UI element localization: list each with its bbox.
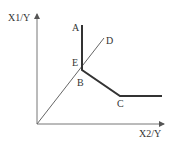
isoquant-diagram: X1/Y X2/Y A D E B C — [0, 0, 171, 145]
x-axis-label: X2/Y — [139, 128, 161, 139]
point-label-e: E — [72, 57, 78, 68]
point-label-d: D — [106, 35, 113, 46]
point-label-c: C — [117, 98, 124, 109]
point-label-b: B — [77, 77, 84, 88]
point-label-a: A — [72, 22, 80, 33]
diagram-canvas: X1/Y X2/Y A D E B C — [0, 0, 171, 145]
ray-od — [37, 38, 104, 124]
isoquant-curve — [82, 25, 162, 96]
y-axis-label: X1/Y — [8, 12, 30, 23]
